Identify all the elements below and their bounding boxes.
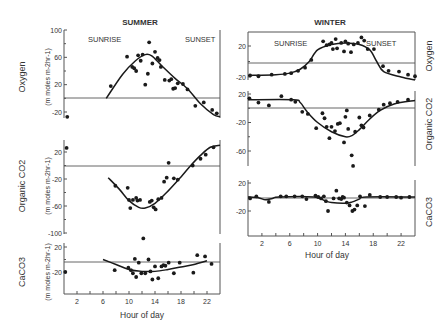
data-point: [348, 204, 352, 208]
y-tick-label: 100: [50, 27, 62, 34]
data-point: [314, 126, 318, 130]
data-point: [362, 126, 366, 130]
data-point: [167, 261, 171, 265]
data-point: [158, 58, 162, 62]
data-point: [127, 198, 131, 202]
data-point: [186, 88, 190, 92]
data-point: [397, 70, 401, 74]
data-point: [215, 111, 219, 115]
summer-co2-ylabel: Organic CO2: [17, 160, 27, 213]
data-point: [267, 200, 271, 204]
data-point: [134, 69, 138, 73]
data-point: [167, 161, 171, 165]
x-tick-label: 22: [397, 240, 405, 247]
data-point: [151, 278, 155, 282]
data-point: [139, 271, 143, 275]
data-point: [156, 276, 160, 280]
data-point: [178, 261, 182, 265]
x-tick-label: 18: [369, 240, 377, 247]
data-point: [378, 195, 382, 199]
y-tick-label: 20: [54, 149, 62, 156]
data-point: [330, 41, 334, 45]
data-point: [181, 82, 185, 86]
data-point: [338, 121, 342, 125]
data-point: [210, 262, 214, 266]
data-point: [165, 176, 169, 180]
x-tick-label: 22: [203, 298, 211, 305]
data-point: [331, 47, 335, 51]
data-point: [270, 73, 274, 77]
winter-xlabel: Hour of day: [305, 250, 350, 260]
summer-co2-units: (m moles m-2hr-1): [44, 157, 52, 215]
data-point: [325, 125, 329, 129]
summer-xlabel: Hour of day: [120, 310, 165, 320]
data-point: [351, 164, 355, 168]
data-point: [332, 197, 336, 201]
data-point: [377, 108, 381, 112]
data-point: [382, 103, 386, 107]
data-point: [345, 108, 349, 112]
data-point: [247, 96, 251, 100]
data-point: [131, 271, 135, 275]
data-point: [342, 141, 346, 145]
data-point: [163, 78, 167, 82]
y-tick-label: -20: [236, 119, 246, 126]
data-point: [154, 207, 158, 211]
data-point: [172, 271, 176, 275]
data-point: [352, 43, 356, 47]
data-point: [293, 194, 297, 198]
data-point: [210, 108, 214, 112]
data-point: [385, 195, 389, 199]
data-point: [300, 194, 304, 198]
data-point: [388, 101, 392, 105]
data-point: [330, 125, 334, 129]
data-point: [335, 46, 339, 50]
winter-caco3-panel: 20-202610141822: [236, 180, 415, 248]
data-point: [195, 253, 199, 257]
data-point: [257, 101, 261, 105]
data-point: [353, 130, 357, 134]
y-tick-label: 60: [54, 54, 62, 61]
data-point: [289, 71, 293, 75]
winter-sunrise-label: SUNRISE: [274, 39, 307, 48]
x-tick-label: 14: [151, 298, 159, 305]
summer-organic-co2-panel: 20-20-60-100: [48, 140, 220, 240]
data-point: [394, 195, 398, 199]
summer-oxygen-units: (m moles m-2hr-1): [44, 48, 52, 106]
data-point: [328, 136, 332, 140]
data-point: [109, 84, 113, 88]
data-point: [406, 98, 410, 102]
data-point: [204, 153, 208, 157]
data-point: [345, 201, 349, 205]
data-point: [334, 37, 338, 41]
data-point: [360, 36, 364, 40]
data-point: [156, 197, 160, 201]
data-point: [358, 194, 362, 198]
y-tick-label: 20: [238, 43, 246, 50]
winter-organic-co2-panel: 20-20-60: [236, 91, 415, 168]
x-tick-label: 14: [342, 240, 350, 247]
data-point: [267, 104, 271, 108]
x-tick-label: 10: [125, 298, 133, 305]
data-point: [128, 206, 132, 210]
winter-oxygen-ylabel: Oxygen: [424, 40, 434, 71]
data-point: [342, 196, 346, 200]
data-point: [172, 176, 176, 180]
data-point: [125, 55, 129, 59]
data-point: [363, 204, 367, 208]
data-point: [279, 194, 283, 198]
data-point: [280, 94, 284, 98]
data-point: [191, 164, 195, 168]
data-point: [333, 129, 337, 133]
data-point: [151, 62, 155, 66]
data-point: [153, 264, 157, 268]
data-point: [63, 270, 67, 274]
y-tick-label: -20: [236, 74, 246, 81]
data-point: [413, 74, 417, 78]
data-point: [381, 64, 385, 68]
data-point: [283, 72, 287, 76]
data-point: [147, 258, 151, 262]
data-point: [141, 237, 145, 241]
data-point: [65, 115, 69, 119]
data-point: [322, 194, 326, 198]
